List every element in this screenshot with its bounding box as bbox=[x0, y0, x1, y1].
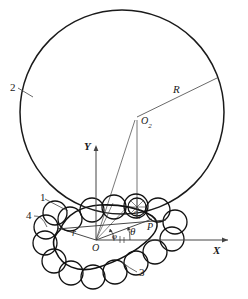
o2-to-o-line bbox=[96, 120, 135, 240]
roller bbox=[34, 215, 58, 239]
roller bbox=[59, 261, 83, 285]
label-part-1: 1 bbox=[40, 192, 46, 203]
y-axis-arrowhead bbox=[94, 145, 99, 151]
label-axis-x: X bbox=[213, 245, 220, 256]
label-axis-y: Y bbox=[84, 141, 91, 152]
roller bbox=[160, 227, 184, 251]
roller bbox=[143, 240, 167, 264]
label-angle-theta: θ bbox=[130, 226, 135, 237]
big-circle bbox=[20, 10, 224, 214]
label-angle-phi: φ bbox=[112, 232, 117, 241]
label-point-P: P bbox=[147, 222, 153, 232]
label-radius-R: R bbox=[173, 84, 180, 95]
label-part-3: 3 bbox=[139, 267, 145, 278]
leader-line-2 bbox=[18, 88, 33, 97]
x-axis-arrowhead bbox=[222, 238, 228, 243]
label-center-O2: O2 bbox=[141, 111, 152, 130]
diagram-canvas bbox=[0, 0, 248, 299]
label-origin-O: O bbox=[92, 243, 99, 253]
label-radius-r: r bbox=[72, 228, 76, 238]
roller bbox=[102, 195, 126, 219]
label-center-O2-sub: 2 bbox=[148, 122, 152, 130]
roller-chain bbox=[33, 194, 187, 289]
roller bbox=[163, 210, 187, 234]
label-center-O1-sub: 1 bbox=[138, 215, 141, 220]
label-part-4: 4 bbox=[26, 210, 32, 221]
label-center-O1: O1 bbox=[134, 202, 141, 220]
label-part-2: 2 bbox=[10, 82, 16, 93]
